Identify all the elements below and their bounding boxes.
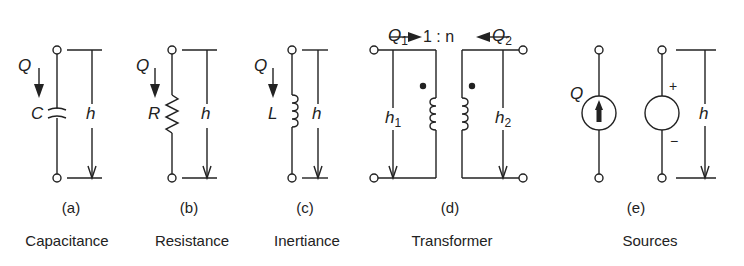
caption-inertiance: Inertiance [274, 232, 340, 249]
caption-sources: Sources [622, 232, 677, 249]
capacitance-symbol: C [31, 104, 43, 124]
flow-label-d2: Q2 [492, 26, 512, 48]
panel-tag-c: (c) [296, 199, 314, 216]
caption-capacitance: Capacitance [25, 232, 108, 249]
flow-arrow-icon [150, 68, 160, 98]
flow-arrow-icon [268, 68, 278, 98]
flow-label-e: Q [570, 84, 583, 104]
effort-label-b: h [201, 104, 210, 124]
panel-tag-a: (a) [62, 199, 80, 216]
flow-label-c: Q [254, 56, 267, 76]
effort-label-e: h [699, 104, 708, 124]
minus-sign: − [670, 133, 678, 149]
caption-transformer: Transformer [411, 232, 492, 249]
effort-label-a: h [86, 104, 95, 124]
plus-sign: + [669, 78, 677, 94]
flow-arrow-icon [34, 68, 44, 98]
flow-label-a: Q [18, 56, 31, 76]
panel-tag-b: (b) [180, 199, 198, 216]
effort-label-d2: h2 [495, 108, 511, 130]
flow-source-element [582, 46, 616, 182]
effort-label-d1: h1 [385, 108, 401, 130]
circuit-diagram [0, 0, 744, 266]
turns-ratio-label: 1 : n [423, 28, 454, 46]
flow-label-b: Q [136, 56, 149, 76]
panel-tag-d: (d) [441, 199, 459, 216]
resistance-symbol: R [148, 104, 160, 124]
inertiance-element [288, 46, 328, 182]
effort-label-c: h [312, 104, 321, 124]
flow-label-d1: Q1 [388, 26, 408, 48]
panel-tag-e: (e) [627, 199, 645, 216]
inertiance-symbol: L [268, 104, 277, 124]
caption-resistance: Resistance [155, 232, 229, 249]
